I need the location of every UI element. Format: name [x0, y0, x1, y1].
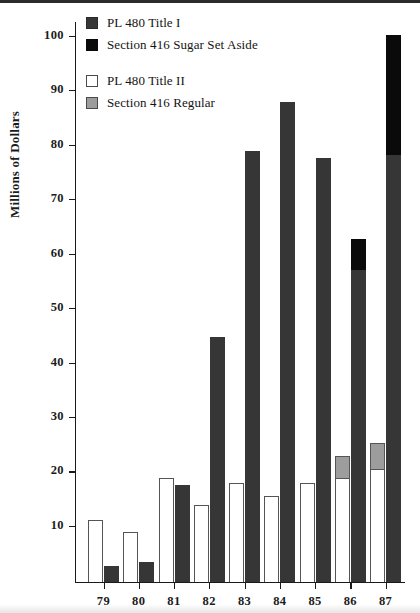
y-axis-tick: 80 [69, 145, 75, 146]
y-axis-tick: 60 [69, 254, 75, 255]
y-axis-tick: 10 [69, 526, 75, 527]
gray-swatch-icon [86, 97, 98, 109]
bar-segment-pl-480-title-i [245, 151, 260, 581]
bar-segment-section-416-sugar-set-aside [351, 239, 366, 270]
y-axis-tick-label: 40 [51, 355, 64, 370]
bar-segment-pl-480-title-ii [370, 469, 385, 582]
legend-item-pl-480-title-ii: PL 480 Title II [86, 70, 258, 92]
y-axis-tick-label: 50 [51, 300, 64, 315]
legend-item-pl-480-title-i: PL 480 Title I [86, 12, 258, 34]
y-axis-tick-label: 80 [51, 137, 64, 152]
bar-segment-pl-480-title-i [386, 155, 401, 581]
bar-segment-pl-480-title-i [210, 337, 225, 582]
y-axis-tick-label: 20 [51, 463, 64, 478]
black-swatch-icon [86, 39, 98, 51]
legend-item-section-416-sugar-set-aside: Section 416 Sugar Set Aside [86, 34, 258, 56]
y-axis-tick-label: 10 [51, 518, 64, 533]
x-axis-tick [104, 583, 105, 589]
y-axis-tick-label: 90 [51, 82, 64, 97]
bar-segment-pl-480-title-ii [159, 478, 174, 582]
legend-label: PL 480 Title II [107, 73, 185, 89]
white-swatch-icon [86, 75, 98, 87]
bar-segment-pl-480-title-i [280, 102, 295, 581]
x-axis-tick [139, 583, 140, 589]
bar-segment-pl-480-title-ii [300, 483, 315, 582]
x-axis-tick [209, 583, 210, 589]
x-axis-tick [350, 583, 351, 589]
y-axis-tick-label: 100 [44, 28, 64, 43]
bar-segment-pl-480-title-ii [88, 520, 103, 582]
chart-figure: Millions of Dollars 10203040506070809010… [0, 0, 420, 613]
legend-label: Section 416 Sugar Set Aside [107, 37, 258, 53]
legend-label: Section 416 Regular [107, 95, 215, 111]
x-axis-tick [386, 583, 387, 589]
y-axis-tick: 70 [69, 199, 75, 200]
bar-segment-pl-480-title-ii [229, 483, 244, 582]
y-axis-tick-label: 30 [51, 409, 64, 424]
y-axis-tick: 90 [69, 90, 75, 91]
y-axis-tick: 40 [69, 363, 75, 364]
y-axis-title: Millions of Dollars [7, 111, 23, 218]
darkgray-swatch-icon [86, 17, 98, 29]
y-axis-tick: 20 [69, 471, 75, 472]
legend-label: PL 480 Title I [107, 15, 181, 31]
bar-segment-pl-480-title-i [175, 485, 190, 581]
bar-segment-section-416-regular [335, 456, 350, 478]
bar-segment-section-416-sugar-set-aside [386, 35, 401, 155]
y-axis-line [75, 22, 76, 583]
bar-segment-pl-480-title-ii [264, 496, 279, 582]
scan-bottom-smudge [0, 604, 420, 613]
x-axis-tick [315, 583, 316, 589]
x-axis-line [75, 582, 405, 583]
legend-item-section-416-regular: Section 416 Regular [86, 92, 258, 114]
bar-segment-pl-480-title-i [351, 270, 366, 582]
y-axis-tick-label: 60 [51, 246, 64, 261]
bar-segment-pl-480-title-i [104, 566, 119, 582]
scan-edge-rule [0, 0, 420, 3]
y-axis-tick: 100 [69, 36, 75, 37]
x-axis-tick [174, 583, 175, 589]
bar-segment-pl-480-title-i [139, 562, 154, 582]
y-axis-tick: 50 [69, 308, 75, 309]
x-axis-tick [280, 583, 281, 589]
y-axis-tick-label: 70 [51, 191, 64, 206]
bar-segment-pl-480-title-ii [335, 478, 350, 581]
bar-segment-pl-480-title-i [316, 158, 331, 582]
x-axis-tick [245, 583, 246, 589]
bar-segment-pl-480-title-ii [123, 532, 138, 582]
bar-segment-pl-480-title-ii [194, 505, 209, 581]
bar-segment-section-416-regular [370, 443, 385, 469]
y-axis-tick: 30 [69, 417, 75, 418]
chart-legend: PL 480 Title I Section 416 Sugar Set Asi… [86, 12, 258, 114]
